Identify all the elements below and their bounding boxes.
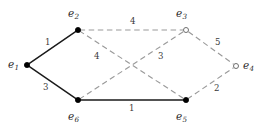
edge-e1-e2: [28, 31, 76, 64]
node-label-base-e5: e: [176, 110, 182, 122]
node-label-e6: e6: [68, 111, 79, 122]
node-label-base-e4: e: [243, 59, 249, 71]
node-label-e3: e3: [176, 8, 187, 19]
node-e5[interactable]: [183, 97, 188, 102]
edge-weight-e1-e2: 1: [45, 38, 50, 47]
edge-weight-e1-e6: 3: [43, 83, 48, 92]
node-e2[interactable]: [75, 27, 80, 32]
edge-weight-e2-e3: 4: [130, 17, 135, 26]
node-e3[interactable]: [184, 28, 189, 33]
node-label-subscript-e1: 1: [15, 63, 20, 72]
edge-weight-e3-e4: 5: [215, 38, 220, 47]
node-label-base-e3: e: [176, 7, 182, 19]
graph-figure: 13144352 e1e2e3e4e5e6: [0, 0, 265, 130]
node-layer: [24, 27, 238, 102]
node-label-e5: e5: [176, 111, 187, 122]
node-label-e1: e1: [8, 59, 19, 70]
edge-weight-e6-e5: 1: [129, 104, 134, 113]
node-label-base-e2: e: [68, 7, 74, 19]
node-e4[interactable]: [234, 64, 239, 69]
node-label-subscript-e2: 2: [75, 12, 80, 21]
node-label-subscript-e4: 4: [250, 64, 255, 73]
node-label-subscript-e5: 5: [183, 115, 188, 124]
edge-weight-e5-e4: 2: [214, 84, 219, 93]
edge-layer: [28, 30, 233, 100]
edge-weight-e6-e3: 3: [158, 52, 163, 61]
edge-weight-e2-e5: 4: [94, 52, 99, 61]
node-label-e4: e4: [243, 60, 254, 71]
node-label-base-e1: e: [8, 58, 14, 70]
node-label-e2: e2: [68, 8, 79, 19]
edge-e6-e3: [79, 32, 183, 100]
node-label-subscript-e3: 3: [183, 12, 188, 21]
edge-e1-e6: [28, 66, 76, 99]
edge-e3-e4: [188, 32, 233, 65]
node-e6[interactable]: [75, 97, 80, 102]
node-label-base-e6: e: [68, 110, 74, 122]
node-label-subscript-e6: 6: [75, 115, 80, 124]
edge-e5-e4: [187, 68, 233, 99]
node-e1[interactable]: [24, 62, 29, 67]
